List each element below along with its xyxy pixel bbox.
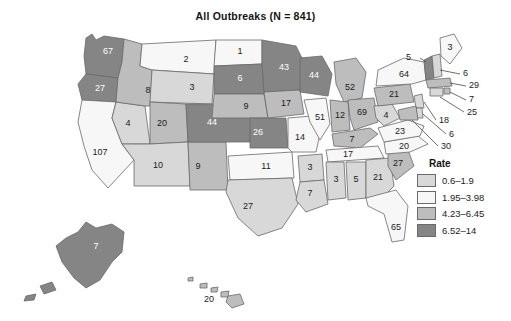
callout-label-NH: 6 <box>463 68 468 78</box>
state-label-ND: 1 <box>237 46 242 56</box>
state-label-IA: 17 <box>281 98 291 108</box>
state-label-AR: 3 <box>307 162 312 172</box>
state-label-CO: 44 <box>207 117 217 127</box>
legend-label-class-2: 1.95–3.98 <box>442 192 484 203</box>
state-label-AK: 7 <box>93 241 98 251</box>
state-FL[interactable]: 65 <box>366 190 408 242</box>
state-label-ID: 8 <box>145 85 150 95</box>
state-label-SC: 27 <box>393 158 403 168</box>
callout-MA: 29 <box>450 80 479 90</box>
state-label-PA: 21 <box>389 89 399 99</box>
legend-swatch-class-4 <box>417 224 436 237</box>
state-label-NM: 9 <box>195 161 200 171</box>
state-ND[interactable]: 1 <box>214 40 262 66</box>
state-label-ME: 3 <box>447 42 452 52</box>
callout-label-CT: 25 <box>467 107 477 117</box>
state-LA[interactable]: 7 <box>296 180 328 212</box>
legend-item-class-2[interactable]: 1.95–3.98 <box>417 191 503 204</box>
state-MD[interactable] <box>398 106 418 120</box>
state-SD[interactable]: 6 <box>214 64 264 94</box>
state-AR[interactable]: 3 <box>298 154 324 182</box>
state-label-MI: 52 <box>345 82 355 92</box>
state-label-MO: 14 <box>295 132 305 142</box>
state-label-UT: 20 <box>157 118 167 128</box>
callout-label-MD: 30 <box>441 141 451 151</box>
legend-swatch-class-1 <box>417 174 436 187</box>
state-MT[interactable]: 2 <box>140 40 216 74</box>
state-AZ[interactable]: 10 <box>122 142 190 186</box>
callout-label-MA: 29 <box>469 80 479 90</box>
callout-label-RI: 7 <box>469 94 474 104</box>
state-label-OK: 11 <box>261 161 270 171</box>
state-WV[interactable]: 4 <box>374 104 400 126</box>
callout-label-NJ: 18 <box>439 115 449 125</box>
legend-item-class-1[interactable]: 0.6–1.9 <box>417 174 503 187</box>
state-PA[interactable]: 21 <box>374 84 414 106</box>
state-IN[interactable]: 12 <box>330 100 350 132</box>
state-WA[interactable]: 67 <box>84 34 124 78</box>
state-UT[interactable]: 20 <box>150 102 188 144</box>
legend-swatch-class-2 <box>417 191 436 204</box>
state-NM[interactable]: 9 <box>188 142 228 190</box>
state-ME[interactable]: 3 <box>440 34 462 64</box>
legend-title: Rate <box>429 158 503 169</box>
state-label-FL: 65 <box>391 222 401 232</box>
state-OR[interactable]: 27 <box>78 74 118 102</box>
state-label-CA: 107 <box>92 147 107 157</box>
state-RI[interactable] <box>444 88 450 94</box>
state-MS[interactable]: 3 <box>326 162 346 200</box>
state-MI[interactable]: 52 <box>334 58 366 102</box>
state-label-MT: 2 <box>183 54 188 64</box>
state-label-NV: 4 <box>125 118 130 128</box>
legend-item-class-4[interactable]: 6.52–14 <box>417 224 503 237</box>
state-label-HI: 20 <box>204 294 214 304</box>
state-CT[interactable] <box>430 88 443 96</box>
state-label-IL: 51 <box>315 112 325 122</box>
state-label-NE: 9 <box>243 101 248 111</box>
state-WI[interactable]: 44 <box>300 56 332 96</box>
state-label-TN: 17 <box>343 149 353 159</box>
state-label-LA: 7 <box>307 188 312 198</box>
state-label-AZ: 10 <box>153 160 163 170</box>
state-label-MN: 43 <box>279 62 289 72</box>
state-OH[interactable]: 69 <box>348 98 378 130</box>
state-KS[interactable]: 26 <box>250 118 288 148</box>
state-TX[interactable]: 27 <box>226 178 298 236</box>
state-NH[interactable] <box>432 54 442 78</box>
state-label-IN: 12 <box>335 110 345 120</box>
state-label-WA: 67 <box>103 46 113 56</box>
state-AL[interactable]: 5 <box>346 162 366 200</box>
callout-NH: 6 <box>440 68 468 78</box>
legend-swatch-class-3 <box>417 207 436 220</box>
state-OK[interactable]: 11 <box>228 152 294 180</box>
state-label-OH: 69 <box>357 107 367 117</box>
state-label-SD: 6 <box>237 73 242 83</box>
state-NE[interactable]: 9 <box>212 94 268 118</box>
legend-label-class-1: 0.6–1.9 <box>442 175 474 186</box>
state-label-TX: 27 <box>243 201 253 211</box>
legend-label-class-4: 6.52–14 <box>442 225 476 236</box>
state-label-NY: 64 <box>399 69 409 79</box>
callout-label-VT: 5 <box>406 52 411 62</box>
state-label-WI: 44 <box>309 70 319 80</box>
state-WY[interactable]: 3 <box>150 70 214 104</box>
state-label-WV: 4 <box>383 110 388 120</box>
state-label-VA: 23 <box>395 126 405 136</box>
state-AK[interactable]: 7 <box>24 222 124 301</box>
state-label-NC: 20 <box>399 141 409 151</box>
state-MN[interactable]: 43 <box>262 40 302 92</box>
state-MA[interactable] <box>426 78 452 88</box>
state-label-MS: 3 <box>333 174 338 184</box>
state-label-WY: 3 <box>189 82 194 92</box>
choropleth-map-figure: All Outbreaks (N = 841) 67 27 107 4 8 2 <box>0 0 511 321</box>
state-NY[interactable]: 64 <box>376 58 426 86</box>
state-HI[interactable]: 20 <box>188 277 244 308</box>
callout-RI: 7 <box>450 92 474 104</box>
callout-label-DE: 6 <box>449 129 454 139</box>
state-label-OR: 27 <box>95 83 105 93</box>
state-label-GA: 21 <box>373 172 383 182</box>
legend-item-class-3[interactable]: 4.23–6.45 <box>417 207 503 220</box>
state-IA[interactable]: 17 <box>264 90 304 118</box>
state-label-KS: 26 <box>253 127 263 137</box>
state-label-AL: 5 <box>353 174 358 184</box>
